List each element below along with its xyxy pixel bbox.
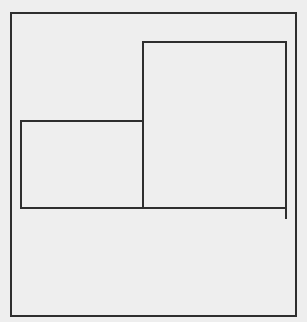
diagram-canvas [0, 0, 307, 322]
outer-frame [11, 13, 296, 316]
rectangles-diagram [0, 0, 307, 322]
left-block [21, 121, 143, 208]
right-block [143, 42, 286, 208]
